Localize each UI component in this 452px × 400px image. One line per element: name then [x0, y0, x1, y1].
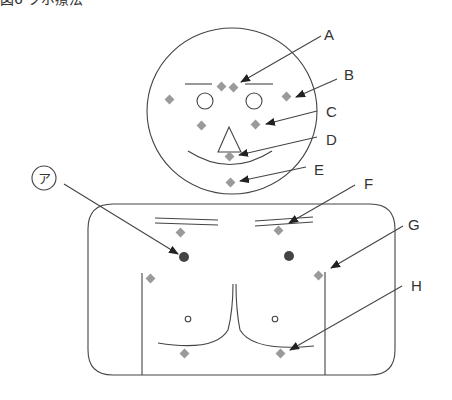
- nose: [218, 127, 241, 152]
- acupoint-e: [226, 178, 236, 188]
- acupoint-g-right: [314, 271, 324, 281]
- arrow-g: [331, 226, 403, 268]
- point-labels: A B C D E F G H ア: [32, 26, 422, 294]
- arrow-e: [240, 167, 306, 181]
- arrow-h: [290, 286, 402, 350]
- left-eye: [197, 93, 213, 109]
- marked-point-right: [284, 251, 294, 261]
- acupoint-diagram: A B C D E F G H ア: [0, 0, 452, 400]
- torso-outline: [88, 204, 395, 375]
- label-h: H: [411, 277, 422, 294]
- acupoint-c-right: [251, 120, 261, 130]
- acupoint-a-right: [229, 83, 239, 93]
- acupoint-f-left: [176, 228, 186, 238]
- arrow-circled: [64, 184, 178, 254]
- label-a: A: [324, 26, 334, 43]
- label-f: F: [364, 175, 373, 192]
- right-breast-curve: [236, 284, 314, 347]
- acupoint-f-right: [274, 226, 284, 236]
- torso-acupoints: [146, 226, 324, 359]
- acupoint-c-left: [197, 121, 207, 131]
- left-breast-curve: [158, 284, 233, 346]
- right-nipple: [272, 316, 278, 322]
- label-b: B: [344, 66, 354, 83]
- arrow-c: [266, 111, 317, 124]
- acupoint-g-left: [146, 274, 156, 284]
- arrow-b: [296, 79, 337, 97]
- acupoint-b-left: [165, 95, 175, 105]
- right-collarbone-upper: [255, 217, 313, 221]
- acupoint-h-right: [276, 349, 286, 359]
- left-nipple: [185, 316, 191, 322]
- torso: [88, 204, 395, 375]
- face-acupoints: [165, 82, 292, 188]
- left-collarbone-upper: [155, 218, 218, 220]
- acupoint-h-left: [180, 349, 190, 359]
- left-collarbone-lower: [155, 223, 218, 225]
- right-eye: [246, 93, 262, 109]
- acupoint-d: [225, 152, 235, 162]
- label-g: G: [408, 216, 420, 233]
- label-e: E: [314, 161, 324, 178]
- label-circled-a: ア: [38, 171, 51, 186]
- label-c: C: [326, 103, 337, 120]
- acupoint-b-right: [282, 92, 292, 102]
- acupoint-a-left: [217, 82, 227, 92]
- label-d: D: [326, 131, 337, 148]
- right-collarbone-lower: [255, 222, 313, 226]
- marked-point-left: [179, 252, 189, 262]
